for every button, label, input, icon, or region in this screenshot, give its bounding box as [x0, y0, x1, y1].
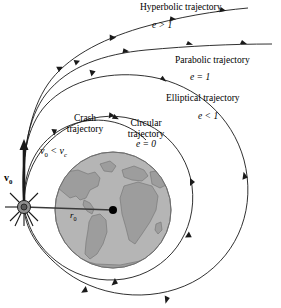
velocity-vector-arrow — [20, 139, 29, 207]
velocity-vector-label: v0 — [4, 172, 12, 186]
direction-arrowheads — [50, 7, 249, 304]
circular-trajectory-label-line2: trajectory — [120, 129, 172, 140]
circular-trajectory-label-line1: Circular — [120, 118, 172, 129]
hyperbolic-trajectory-label: Hyperbolic trajectory — [140, 2, 222, 13]
parabolic-eccentricity-label: e = 1 — [190, 72, 210, 83]
elliptical-eccentricity-label: e < 1 — [198, 111, 218, 122]
parabolic-trajectory-label: Parabolic trajectory — [175, 55, 250, 66]
crash-trajectory-label-line1: Crash — [60, 113, 110, 124]
earth-center-dot — [109, 206, 117, 214]
hyperbolic-eccentricity-text: e > 1 — [152, 20, 172, 30]
crash-trajectory-label-line2: trajectory — [60, 124, 110, 135]
crash-velocity-condition-label: v0 < vc — [40, 145, 67, 159]
hyperbolic-eccentricity-label: e > 1 — [152, 20, 172, 31]
circular-trajectory-label: Circular trajectory e = 0 — [120, 118, 172, 150]
orbital-trajectory-diagram: Hyperbolic trajectory e > 1 Parabolic tr… — [0, 0, 281, 308]
launch-point-starburst — [5, 193, 38, 226]
radius-label-r0: r0 — [70, 210, 77, 223]
elliptical-trajectory-label: Elliptical trajectory — [166, 93, 240, 104]
circular-eccentricity-label: e = 0 — [120, 139, 172, 150]
crash-trajectory-label: Crash trajectory — [60, 113, 110, 134]
